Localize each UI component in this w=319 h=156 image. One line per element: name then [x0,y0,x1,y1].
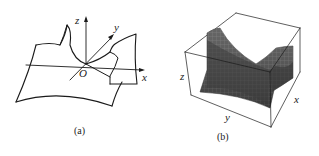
z-arrow-icon [84,16,88,22]
caption-a: (a) [74,125,85,137]
axes-a: z y x O [26,14,147,83]
x-axis-label: x [141,71,147,83]
y-axis-label-b: y [224,111,230,123]
panel-b: z y x (b) [179,13,300,143]
caption-b: (b) [217,131,229,143]
z-axis-label: z [74,14,80,26]
y-arrow-icon [108,34,114,40]
origin-label: O [79,67,87,79]
x-axis-label-b: x [293,93,299,105]
saddle-surface-mesh [200,28,293,108]
y-axis-label: y [113,21,119,33]
z-axis-label-b: z [179,70,185,82]
panel-a: z y x O (a) [16,14,147,137]
